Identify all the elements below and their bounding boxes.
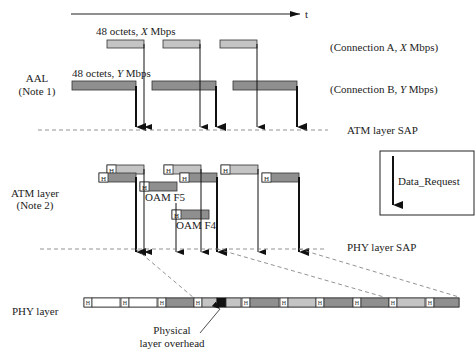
svg-text:H: H xyxy=(182,175,187,183)
svg-text:H: H xyxy=(355,300,360,306)
oam-f5-label: OAM F5 xyxy=(145,191,186,203)
oam-f4-label: OAM F4 xyxy=(176,219,217,231)
svg-text:H: H xyxy=(318,300,323,306)
overhead-pointer-arrow xyxy=(200,309,220,333)
svg-text:H: H xyxy=(391,300,396,306)
legend-box: Data_Request xyxy=(380,151,474,215)
legend-label: Data_Request xyxy=(398,175,460,187)
svg-text:H: H xyxy=(160,300,165,306)
time-axis-label: t xyxy=(305,8,308,20)
svg-text:H: H xyxy=(101,175,106,183)
phy-layer-label: PHY layer xyxy=(12,305,59,317)
atm-cell-conn-b: H xyxy=(262,173,299,183)
atm-cell-conn-b: H xyxy=(99,173,136,183)
time-axis: t xyxy=(71,8,308,20)
conn-a-label: (Connection A, X Mbps) xyxy=(330,41,439,54)
svg-text:H: H xyxy=(223,167,228,175)
physical-overhead-block xyxy=(217,298,226,307)
atm-layer-label: ATM layer xyxy=(11,187,59,199)
svg-text:H: H xyxy=(428,300,433,306)
svg-text:H: H xyxy=(86,300,91,306)
svg-text:H: H xyxy=(282,300,287,306)
phy-sap-label: PHY layer SAP xyxy=(347,241,416,253)
atm-cell-conn-b: H xyxy=(180,173,217,183)
conn-b-label: (Connection B, Y Mbps) xyxy=(330,83,438,96)
atm-sap-label: ATM layer SAP xyxy=(347,124,418,136)
aal-layer-label: AAL xyxy=(26,72,49,84)
atm-cells: H H H H H H xyxy=(99,165,299,220)
overhead-label-line2: layer overhead xyxy=(139,337,205,349)
aal-note-label: (Note 1) xyxy=(19,85,56,98)
conn-a-pdus xyxy=(107,40,257,48)
conn-b-pdus xyxy=(72,81,297,90)
phy-cell-stream: H H H H H H H H H H xyxy=(84,298,459,307)
svg-text:H: H xyxy=(196,300,201,306)
conn-a-pdu-label: 48 octets, X Mbps xyxy=(96,25,175,37)
svg-text:H: H xyxy=(264,175,269,183)
svg-text:H: H xyxy=(123,300,128,306)
atm-note-label: (Note 2) xyxy=(17,199,54,212)
svg-text:H: H xyxy=(244,300,249,306)
atm-cell-conn-a: H xyxy=(221,165,258,175)
conn-b-pdu-label: 48 octets, Y Mbps xyxy=(72,67,151,79)
svg-text:H: H xyxy=(166,167,171,175)
atm-layering-diagram: t AAL (Note 1) 48 octets, X Mbps 48 octe… xyxy=(0,0,475,361)
overhead-label-line1: Physical xyxy=(153,324,190,336)
